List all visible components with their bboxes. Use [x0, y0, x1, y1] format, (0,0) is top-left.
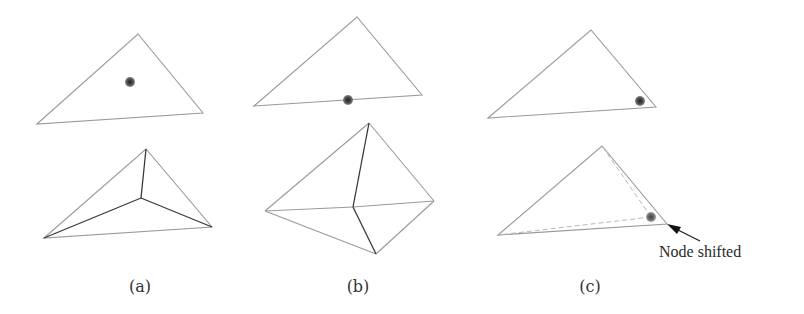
panel-label-a: (a)	[129, 277, 151, 296]
node-c-shifted	[646, 212, 656, 222]
arrow-icon	[667, 224, 700, 241]
triangle-c-dashed-edges	[498, 146, 651, 235]
panel-label-b: (b)	[347, 277, 370, 296]
annotation-node-shifted: Node shifted	[659, 243, 741, 260]
triangle-a-refined-outline	[44, 149, 212, 238]
node-b-edge	[343, 95, 353, 105]
panel-label-c: (c)	[579, 277, 600, 296]
triangle-a-original	[37, 34, 203, 124]
panel-c: Node shifted (c)	[488, 30, 741, 296]
node-a-interior	[125, 77, 135, 87]
triangle-c-original	[488, 30, 656, 118]
panel-a: (a)	[37, 34, 212, 296]
node-c-near-vertex	[635, 96, 645, 106]
quad-b-refined	[265, 123, 434, 254]
triangle-c-shifted	[498, 146, 667, 235]
panel-b: (b)	[254, 17, 434, 296]
mesh-refinement-diagram: (a) (b) Node shifted (c)	[0, 0, 804, 314]
triangle-b-original	[254, 17, 422, 106]
triangle-a-split-edges	[44, 149, 212, 238]
